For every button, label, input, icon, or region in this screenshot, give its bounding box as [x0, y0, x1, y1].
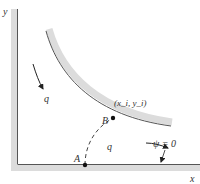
point-b-coordinates: (x_i, y_i) [114, 98, 146, 108]
flow-label-q-upper: q [44, 93, 49, 104]
point-a-marker [83, 163, 87, 167]
point-b-label: B [102, 115, 108, 126]
flow-diagram: y x A B (x_i, y_i) q q ψ = 0 [0, 0, 200, 184]
streamline-label: ψ = 0 [153, 138, 176, 149]
point-b-marker [111, 116, 115, 120]
flow-arrow-upper [33, 64, 43, 89]
flow-label-q-lower: q [107, 141, 112, 152]
y-axis-label: y [2, 6, 8, 17]
x-axis-wall [11, 164, 200, 171]
y-axis-wall [11, 9, 18, 171]
curved-wall [46, 29, 172, 126]
point-a-label: A [73, 153, 81, 164]
x-axis-label: x [189, 173, 195, 184]
streamline-pointer-arrow [161, 150, 165, 162]
